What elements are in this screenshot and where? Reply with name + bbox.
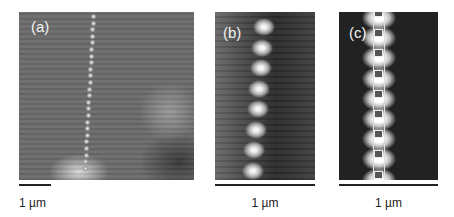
scale-bar-c-text: 1 µm	[339, 196, 438, 210]
panel-b-image: (b)	[215, 12, 315, 180]
scale-bar-c	[339, 184, 438, 186]
panel-c-image: (c)	[339, 12, 438, 180]
panel-a-image: (a)	[19, 12, 194, 180]
panel-a-label: (a)	[31, 18, 49, 35]
panel-c-label: (c)	[349, 24, 367, 41]
scale-bar-a	[19, 184, 51, 186]
scale-bar-a-text: 1 µm	[19, 196, 46, 210]
panel-b-label: (b)	[223, 24, 241, 41]
scale-bar-b	[215, 184, 315, 186]
scale-bar-b-text: 1 µm	[215, 196, 315, 210]
